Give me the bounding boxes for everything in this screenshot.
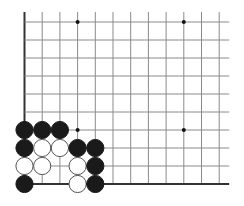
go-board-diagram [0,0,244,206]
star-point-icon [76,128,80,132]
star-point-icon [76,20,80,24]
black-stone-icon [51,121,68,138]
black-stone-icon [87,157,104,174]
board-grid [25,12,230,184]
black-stone-icon [69,139,86,156]
black-stone-icon [16,139,33,156]
black-stone-icon [16,175,33,192]
star-point-icon [182,20,186,24]
white-stone-icon [69,175,86,192]
black-stone-icon [87,175,104,192]
white-stone-icon [34,157,51,174]
black-stone-icon [87,139,104,156]
white-stone-icon [34,139,51,156]
go-board[interactable] [0,0,244,206]
white-stone-icon [16,157,33,174]
white-stone-icon [69,157,86,174]
star-point-icon [182,128,186,132]
white-stone-icon [51,139,68,156]
black-stone-icon [34,121,51,138]
black-stone-icon [16,121,33,138]
